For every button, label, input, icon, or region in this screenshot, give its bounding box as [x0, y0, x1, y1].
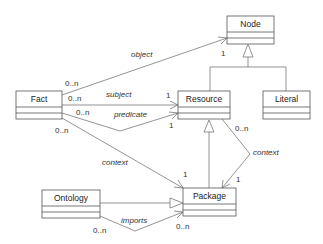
mult-context-res-from: 0..n	[235, 124, 248, 133]
mult-object-to: 1	[221, 49, 226, 58]
label-imports: imports	[121, 216, 147, 225]
generalization-ontology-package	[100, 198, 183, 208]
label-predicate: predicate	[113, 110, 147, 119]
label-context-resource: context	[253, 148, 280, 157]
mult-predicate-to: 1	[169, 121, 174, 130]
mult-subject-from: 0..n	[68, 94, 81, 103]
label-object: object	[131, 50, 153, 59]
mult-context-fact-to: 1	[183, 170, 188, 179]
class-name-fact: Fact	[31, 94, 48, 104]
mult-predicate-from: 0..n	[76, 108, 89, 117]
mult-object-from: 0..n	[65, 79, 78, 88]
assoc-object	[62, 37, 227, 95]
label-subject: subject	[106, 90, 132, 99]
uml-diagram: Node Fact Resource Literal Ontology Pack…	[0, 0, 323, 244]
mult-imports-to: 0..n	[176, 222, 189, 231]
class-name-literal: Literal	[275, 94, 298, 104]
class-name-package: Package	[193, 191, 226, 201]
generalization-package-resource	[204, 120, 214, 188]
assoc-context-fact	[62, 118, 183, 188]
mult-subject-to: 1	[166, 91, 171, 100]
mult-imports-from: 0..n	[93, 226, 106, 235]
class-name-ontology: Ontology	[54, 193, 89, 203]
class-name-node: Node	[240, 19, 261, 29]
mult-context-fact-from: 0..n	[55, 126, 68, 135]
class-name-resource: Resource	[186, 94, 223, 104]
label-context-fact: context	[102, 158, 129, 167]
mult-context-res-to: 1	[236, 175, 241, 184]
